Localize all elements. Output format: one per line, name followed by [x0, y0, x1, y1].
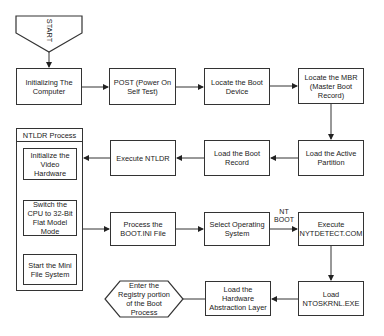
step-switch-cpu: Switch the CPU to 32-Bit Flat Model Mode [23, 200, 77, 236]
step-start-mini-fs: Start the Mini File System [23, 254, 77, 285]
node-label: Execute NYTDETECT.COM [300, 220, 363, 238]
node-post: POST (Power On Self Test) [109, 68, 176, 105]
step-label: Switch the CPU to 32-Bit Flat Model Mode [26, 200, 74, 236]
node-execute-ntldr: Execute NTLDR [110, 140, 176, 176]
node-label: Load NTOSKRNL.EXE [301, 290, 361, 308]
nt-boot-label: NT BOOT [272, 208, 296, 224]
node-label: POST (Power On Self Test) [112, 78, 173, 96]
node-label: Load the Hardware Abstraction Layer [208, 285, 268, 312]
node-load-ntoskrnl: Load NTOSKRNL.EXE [298, 281, 364, 316]
step-initialize-video: Initialize the Video Hardware [23, 148, 77, 180]
node-load-active-partition: Load the Active Partition [298, 140, 364, 176]
node-label: Select Operating System [207, 220, 267, 238]
node-process-boot-ini: Process the BOOT.INI File [110, 212, 176, 246]
ntldr-process-title: NTLDR Process [17, 129, 82, 142]
node-initializing-computer: Initializing The Computer [16, 68, 82, 105]
step-label: Initialize the Video Hardware [26, 151, 74, 178]
node-load-hal: Load the Hardware Abstraction Layer [205, 281, 271, 316]
node-label: Locate the Boot Device [207, 78, 267, 96]
node-label: Enter the Registry portion of the Boot P… [118, 281, 170, 317]
node-load-boot-record: Load the Boot Record [204, 140, 270, 176]
start-label: START [45, 18, 54, 44]
step-label: Start the Mini File System [26, 261, 74, 279]
registry-hexagon-label: Enter the Registry portion of the Boot P… [118, 281, 170, 317]
node-execute-ntdetect: Execute NYTDETECT.COM [298, 212, 364, 246]
node-label: Execute NTLDR [116, 154, 169, 163]
node-select-os: Select Operating System [204, 212, 270, 246]
node-label: Load the Boot Record [207, 149, 267, 167]
node-label: Load the Active Partition [301, 149, 361, 167]
node-label: Initializing The Computer [19, 78, 79, 96]
node-label: Process the BOOT.INI File [113, 220, 173, 238]
node-locate-boot-device: Locate the Boot Device [204, 68, 270, 105]
node-locate-mbr: Locate the MBR (Master Boot Record) [298, 68, 364, 104]
node-label: Locate the MBR (Master Boot Record) [301, 73, 361, 100]
